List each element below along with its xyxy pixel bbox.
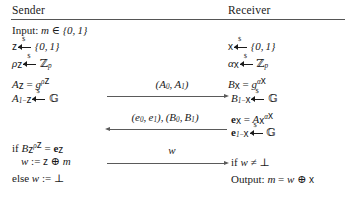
message-arrow-msg-eB (110, 129, 227, 130)
receiver-line-if-w: if w ≠ ⊥ (231, 157, 270, 168)
protocol-figure: Sender Receiver Input: m ∈ {0, 1} z$ {0,… (0, 0, 356, 197)
receiver-line-alpha-sample: αx$ ℤp (228, 58, 268, 70)
receiver-line-B1mx: B1−x$ 𝔾 (231, 93, 278, 105)
sender-line-Az: Az = gρz (12, 76, 49, 91)
sender-line-z-sample: z$ {0, 1} (12, 41, 60, 52)
column-header-receiver: Receiver (228, 4, 270, 16)
sender-line-else-bot: else w := ⊥ (12, 173, 64, 184)
receiver-line-e1mx: e1−x$ 𝔾 (231, 127, 276, 139)
message-arrow-msg-A (107, 96, 225, 97)
receiver-line-x-sample: x$ {0, 1} (228, 41, 276, 52)
receiver-line-output: Output: m = w ⊕ x (231, 174, 314, 185)
message-arrow-msg-w (107, 163, 225, 164)
column-header-sender: Sender (12, 4, 45, 16)
sender-line-rho-sample: ρz$ ℤp (12, 58, 52, 70)
arrowhead-right-msg-A (224, 94, 229, 98)
arrowhead-right-msg-w (224, 161, 229, 165)
sender-line-if-check: if Bzρz = ez (12, 140, 63, 155)
header-divider-rule (11, 19, 345, 20)
message-label-msg-eB: (e0, e1), (B0, B1) (103, 111, 227, 124)
message-label-msg-A: (A0, A1) (122, 78, 222, 91)
sender-line-w-assign: w := z ⊕ m (21, 156, 71, 167)
arrowhead-left-msg-eB (105, 127, 110, 131)
receiver-line-ex: ex = Axαx (231, 111, 273, 126)
receiver-line-Bx: Bx = gαx (228, 76, 266, 91)
message-label-msg-w: w (122, 144, 222, 156)
sender-line-A1mz: A1−z$ 𝔾 (12, 93, 59, 105)
